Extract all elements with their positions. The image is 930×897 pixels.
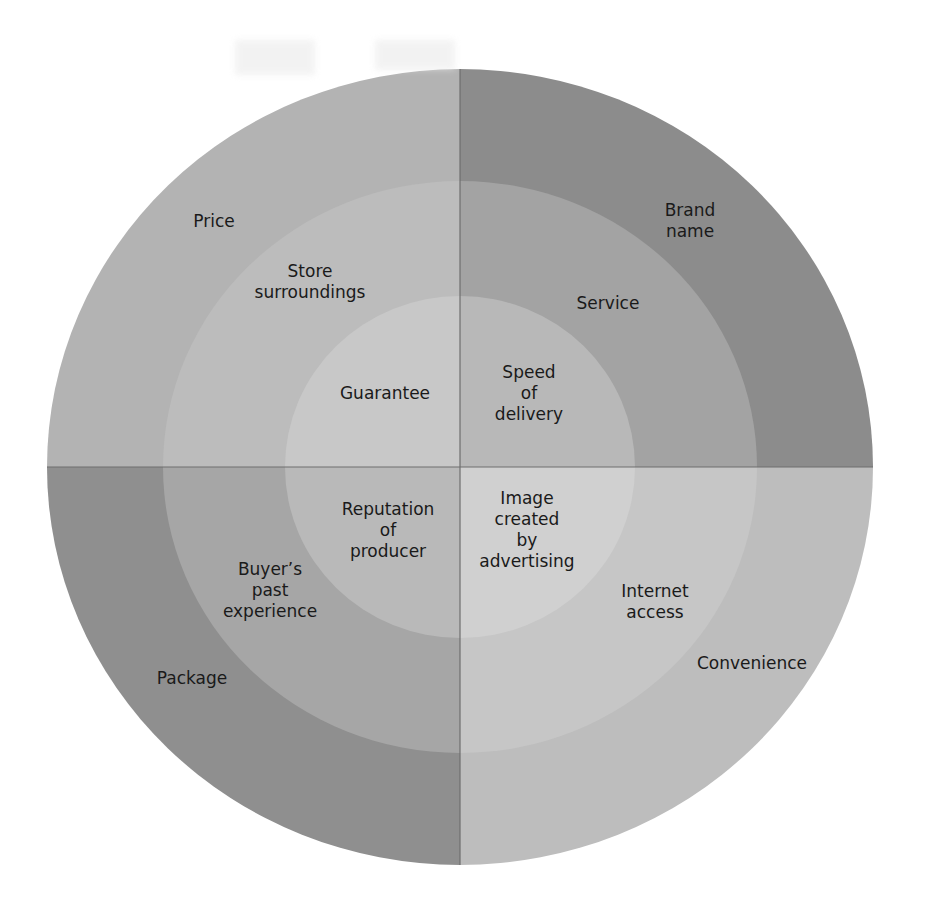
scan-smudge bbox=[235, 40, 315, 75]
label-price: Price bbox=[193, 211, 234, 232]
label-reputation-of-producer: Reputation of producer bbox=[342, 499, 435, 562]
label-convenience: Convenience bbox=[697, 653, 807, 674]
label-service: Service bbox=[577, 293, 640, 314]
label-guarantee: Guarantee bbox=[340, 383, 430, 404]
label-speed-of-delivery: Speed of delivery bbox=[495, 362, 563, 425]
label-package: Package bbox=[157, 668, 227, 689]
product-attribute-wheel: Price Store surroundings Guarantee Brand… bbox=[0, 0, 930, 897]
label-store-surroundings: Store surroundings bbox=[255, 261, 366, 303]
wheel-graphic bbox=[0, 0, 930, 897]
label-internet-access: Internet access bbox=[621, 581, 689, 623]
label-buyers-past-experience: Buyer’s past experience bbox=[223, 559, 317, 622]
scan-smudge bbox=[375, 40, 455, 70]
label-image-created-by-advertising: Image created by advertising bbox=[479, 488, 574, 572]
label-brand-name: Brand name bbox=[665, 200, 716, 242]
